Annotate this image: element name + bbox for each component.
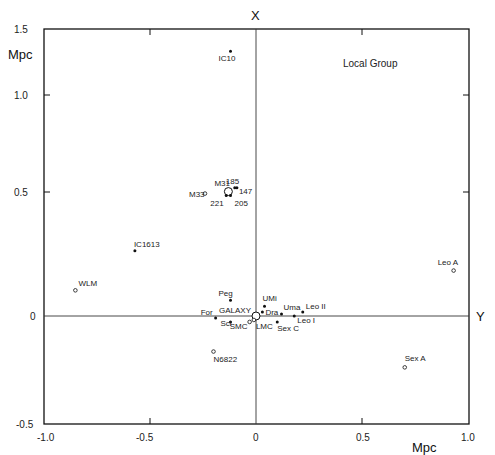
point-label: LMC xyxy=(256,322,273,331)
data-point-for xyxy=(214,316,217,319)
point-label: Leo A xyxy=(438,258,459,267)
point-label: For xyxy=(201,308,213,317)
plot-frame xyxy=(44,29,469,424)
point-label: N6822 xyxy=(214,355,238,364)
data-point-sex-a xyxy=(403,366,407,370)
data-point-leo-i xyxy=(293,315,296,318)
point-label: UMi xyxy=(263,294,277,303)
data-point-uma xyxy=(280,313,283,316)
data-point-n6822 xyxy=(212,350,216,354)
point-label: SMC xyxy=(230,322,248,331)
data-points: IC10M31M33185147221205IC1613WLMLeo APegU… xyxy=(74,50,459,369)
y-axis-name-right: Y xyxy=(476,309,485,324)
y-tick-neg-0-5: -0.5 xyxy=(16,419,34,430)
point-label: 185 xyxy=(226,177,240,186)
unit-label-bottom: Mpc xyxy=(412,440,437,455)
point-label: 221 xyxy=(210,199,224,208)
point-label: 147 xyxy=(239,187,253,196)
x-tick-neg-1-0: -1.0 xyxy=(37,432,55,443)
data-point-dra xyxy=(261,311,264,314)
data-point-ic10 xyxy=(229,50,232,53)
y-tick-0-5: 0.5 xyxy=(14,187,28,198)
data-point-peg xyxy=(229,299,232,302)
ticks xyxy=(44,29,469,424)
x-tick-0-5: 0.5 xyxy=(356,432,370,443)
unit-label-left: Mpc xyxy=(8,47,33,62)
y-tick-0: 0 xyxy=(30,311,36,322)
point-label: Peg xyxy=(219,289,233,298)
data-point-smc xyxy=(248,320,252,324)
point-label: Dra xyxy=(265,308,278,317)
point-label: WLM xyxy=(78,279,97,288)
data-point-221 xyxy=(225,194,228,197)
x-tick-1-0: 1.0 xyxy=(461,432,475,443)
point-label: Uma xyxy=(284,303,301,312)
x-axis-name-top: X xyxy=(251,8,260,23)
data-point-wlm xyxy=(74,289,78,293)
y-tick-1-5: 1.5 xyxy=(14,24,28,35)
y-tick-1-0: 1.0 xyxy=(14,90,28,101)
point-label: GALAXY xyxy=(219,306,252,315)
local-group-scatter-plot: IC10M31M33185147221205IC1613WLMLeo APegU… xyxy=(0,0,495,455)
point-label: Leo I xyxy=(297,316,315,325)
x-tick-0: 0 xyxy=(253,432,259,443)
x-tick-neg-0-5: -0.5 xyxy=(136,432,154,443)
axis-texts: 1.5 1.0 0.5 0 -0.5 -1.0 -0.5 0 0.5 1.0 X… xyxy=(8,8,485,455)
point-label: Sex A xyxy=(405,354,427,363)
point-label: 205 xyxy=(235,199,249,208)
chart-title: Local Group xyxy=(343,58,398,69)
point-label: IC1613 xyxy=(134,240,160,249)
data-point-leo-a xyxy=(452,269,456,273)
data-point-leo-ii xyxy=(301,311,304,314)
point-label: IC10 xyxy=(219,54,236,63)
data-point-205 xyxy=(229,194,232,197)
point-label: M33 xyxy=(189,190,205,199)
point-label: Leo II xyxy=(306,302,326,311)
data-point-ic1613 xyxy=(133,249,136,252)
point-label: Sex C xyxy=(277,324,299,333)
